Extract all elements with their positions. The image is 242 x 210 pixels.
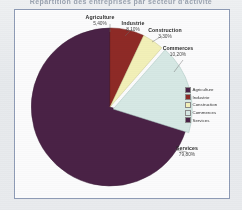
slice-label-services: Services 79,80% xyxy=(163,146,211,157)
legend-label-construction: Construction xyxy=(193,102,218,107)
legend-swatch-services xyxy=(185,117,191,123)
page-title: Répartition des entreprises par secteur … xyxy=(0,0,242,7)
slice-label-services-value: 79,80% xyxy=(163,152,211,158)
chart-frame: Agriculture 5,40% Industrie 8,10% Constr… xyxy=(14,9,230,199)
chart-legend: Agriculture Industrie Construction Comme… xyxy=(185,86,229,124)
legend-item-agriculture[interactable]: Agriculture xyxy=(185,86,229,94)
slice-label-construction: Construction 3,30% xyxy=(137,28,193,39)
pie-chart: Agriculture 5,40% Industrie 8,10% Constr… xyxy=(15,10,229,198)
legend-item-services[interactable]: Services xyxy=(185,116,229,124)
legend-item-industrie[interactable]: Industrie xyxy=(185,94,229,102)
slice-label-commerces: Commerces 10,20% xyxy=(151,46,205,57)
slice-label-commerces-value: 10,20% xyxy=(151,52,205,58)
legend-label-commerces: Commerces xyxy=(193,110,217,115)
legend-swatch-industrie xyxy=(185,94,191,100)
legend-label-services: Services xyxy=(193,118,210,123)
legend-label-agriculture: Agriculture xyxy=(193,87,214,92)
legend-swatch-construction xyxy=(185,102,191,108)
scanned-page: Répartition des entreprises par secteur … xyxy=(0,0,242,210)
slice-label-construction-value: 3,30% xyxy=(137,34,193,40)
legend-swatch-commerces xyxy=(185,110,191,116)
legend-label-industrie: Industrie xyxy=(193,95,210,100)
legend-item-commerces[interactable]: Commerces xyxy=(185,109,229,117)
legend-item-construction[interactable]: Construction xyxy=(185,101,229,109)
legend-swatch-agriculture xyxy=(185,87,191,93)
